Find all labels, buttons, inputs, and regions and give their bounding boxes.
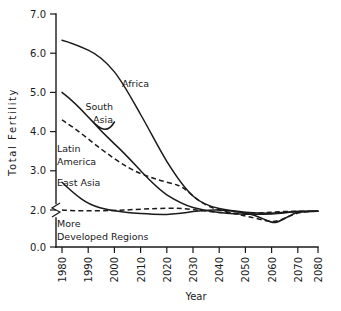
series-label-east-asia: East Asia [57,177,100,188]
x-tick-label-2020: 2020 [162,257,173,282]
chart-canvas: 7.0 6.0 5.0 4.0 3.0 2.0 0.0 1980 1990 20… [0,0,341,311]
x-tick-label-1990: 1990 [83,257,94,282]
series-label-more-developed-regions-line2: Developed Regions [57,231,149,242]
series-label-south-asia-line1: South [85,101,113,112]
series-label-latin-america-line1: Latin [57,143,81,154]
series-line-east-asia [62,182,318,222]
x-tick-label-2050: 2050 [240,257,251,282]
x-tick-label-2000: 2000 [109,257,120,282]
x-tick-marks [62,247,318,253]
y-tick-label-2: 2.0 [30,205,46,216]
x-tick-label-1980: 1980 [57,257,68,282]
y-tick-label-3: 3.0 [30,165,46,176]
x-tick-label-2030: 2030 [188,257,199,282]
y-tick-label-7: 7.0 [30,9,46,20]
x-tick-label-2080: 2080 [313,257,324,282]
series-label-latin-america-line2: America [57,156,96,167]
y-tick-label-6: 6.0 [30,48,46,59]
series-label-south-asia-line2: Asia [93,114,113,125]
y-tick-marks [50,14,56,247]
y-tick-label-0: 0.0 [30,242,46,253]
x-tick-label-2070: 2070 [293,257,304,282]
series-label-africa: Africa [122,78,149,89]
y-tick-label-4: 4.0 [30,126,46,137]
series-label-more-developed-regions-line1: More [57,218,81,229]
x-axis-title: Year [184,291,207,302]
y-axis-title: Total Fertility [7,88,18,177]
fertility-chart: 7.0 6.0 5.0 4.0 3.0 2.0 0.0 1980 1990 20… [0,0,341,311]
x-tick-label-2060: 2060 [267,257,278,282]
x-tick-label-2040: 2040 [214,257,225,282]
x-tick-label-2010: 2010 [136,257,147,282]
y-tick-label-5: 5.0 [30,87,46,98]
